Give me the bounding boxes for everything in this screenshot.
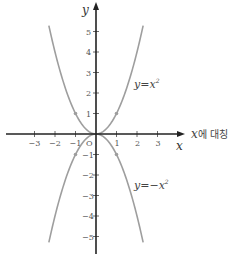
y-tick-label: −5 [82,233,94,242]
x-tick-label: 1 [115,139,120,148]
y-tick-label: −1 [82,151,94,160]
marked-point [115,112,119,116]
y-tick-label: −4 [82,212,94,221]
marked-point [74,112,78,116]
y-tick-label: −2 [82,171,94,180]
origin-label: O [86,139,93,148]
x-tick-label: 2 [135,139,140,148]
y-tick-label: −3 [82,192,94,201]
y-tick-label: 3 [86,69,91,78]
curve-label-y-eq-x2: y=x2 [133,77,160,91]
symmetry-graph: −3−2−112354321−1−2−3−4−5 x y O x에 대칭 y=x… [0,0,234,259]
y-tick-label: 5 [86,28,91,37]
marked-point [115,153,119,157]
curve-label-y-eq-neg-x2: y=−x2 [133,178,169,192]
x-tick-label: −3 [29,139,41,148]
x-axis-label: x [176,139,183,153]
y-tick-label: 4 [86,48,91,57]
y-axis-arrow-icon [93,2,99,10]
marked-point [74,153,78,157]
x-tick-label: 3 [156,139,161,148]
x-tick-label: −2 [49,139,61,148]
y-axis-label: y [81,3,89,17]
y-tick-label: 1 [86,110,91,119]
x-axis-arrow-icon [177,131,185,137]
y-tick-label: 2 [86,89,91,98]
symmetry-annotation: x에 대칭 [191,127,228,141]
